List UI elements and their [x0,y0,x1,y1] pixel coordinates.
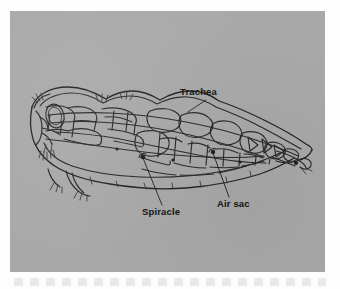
posterior-tip-detail [248,137,312,174]
page-bleed-artifact [14,278,326,286]
leader-trachea [188,100,206,112]
illustration-plate: Trachea Spiracle Air sac [10,11,325,272]
callout-label-trachea: Trachea [180,86,217,97]
callout-label-spiracle: Spiracle [142,206,180,217]
leader-spiracle [143,158,162,205]
figure-page: Trachea Spiracle Air sac [0,0,340,289]
callout-label-air-sac: Air sac [217,198,250,209]
insect-tracheal-system-drawing [10,11,325,272]
